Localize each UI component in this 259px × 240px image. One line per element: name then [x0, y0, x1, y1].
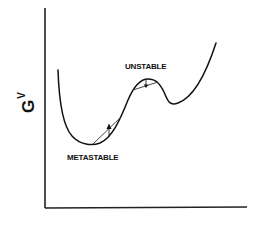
- y-axis-label: GV: [17, 73, 47, 113]
- free-energy-curve: [58, 43, 216, 145]
- metastable-label: METASTABLE: [67, 153, 118, 162]
- unstable-label: UNSTABLE: [125, 62, 166, 71]
- x-axis: [45, 207, 247, 208]
- metastable-tangent-line: [93, 116, 122, 144]
- y-axis-symbol: G: [19, 100, 38, 113]
- y-axis-superscript: V: [16, 92, 27, 99]
